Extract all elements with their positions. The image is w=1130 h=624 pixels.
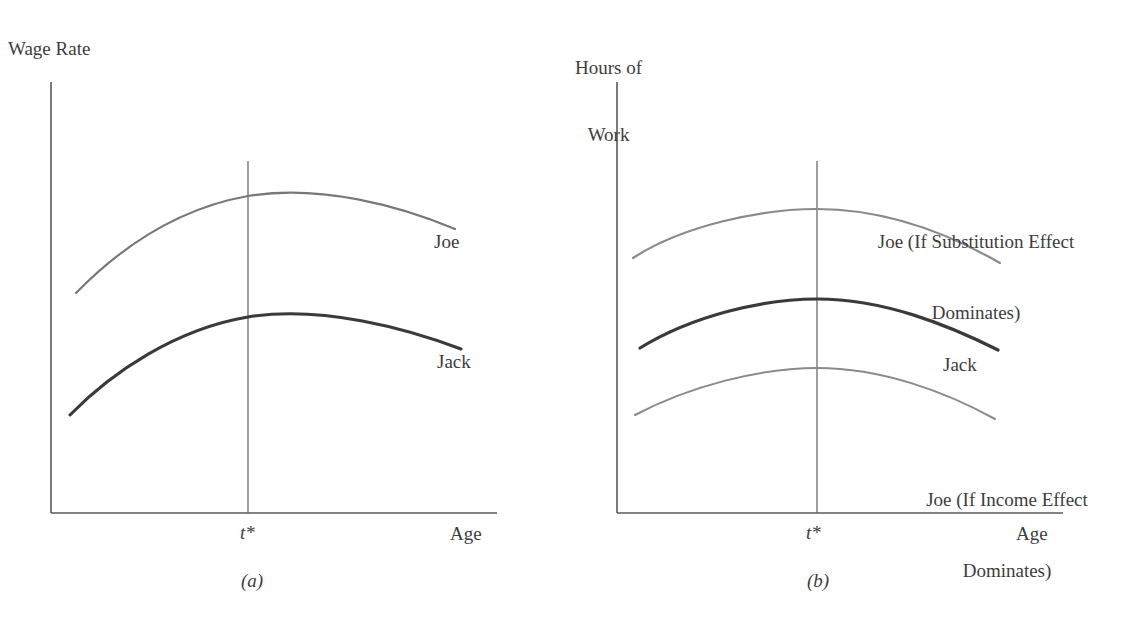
panel-a-tstar-tick-label: t* [240,522,255,544]
panel-a [51,82,497,513]
panel-b-caption: (b) [800,570,836,592]
panel-b-y-axis-title: Hours of Work [575,12,642,191]
figure-root: Wage Rate Joe Jack Age t* (a) Hours of W… [0,0,1130,624]
panel-b-y-axis-title-line1: Hours of [575,57,642,79]
panel-b-x-axis-title: Age [1016,523,1048,545]
panel-b-curve-label-joe-substitution-line2: Dominates) [845,301,1107,325]
panel-a-curve-label-jack: Jack [437,351,471,373]
panel-b-curve-label-joe-income-line1: Joe (If Income Effect [900,488,1114,512]
panel-b-curve-label-joe-substitution-line1: Joe (If Substitution Effect [845,230,1107,254]
panel-b-curve-label-joe-income-line2: Dominates) [900,559,1114,583]
panel-a-curve-joe [76,193,455,293]
panel-a-x-axis-title: Age [450,523,482,545]
panel-b-tstar-tick-label: t* [806,522,821,544]
panel-b-curve-joe-income [635,368,995,419]
panel-a-curve-jack [70,314,461,415]
panel-b-y-axis-title-line2: Work [575,124,642,146]
panel-a-curve-label-joe: Joe [434,231,459,253]
panel-b-curve-label-joe-substitution: Joe (If Substitution Effect Dominates) [845,182,1107,372]
panel-a-caption: (a) [234,570,270,592]
panel-b-curve-label-joe-income: Joe (If Income Effect Dominates) [900,440,1114,624]
panel-a-y-axis-title: Wage Rate [8,38,90,60]
panel-b-curve-label-jack: Jack [943,354,977,376]
